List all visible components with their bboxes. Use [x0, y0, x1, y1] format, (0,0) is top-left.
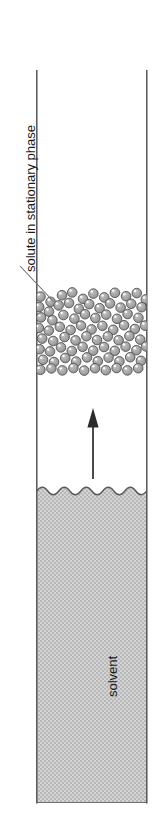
solvent-region: [37, 487, 147, 803]
solute-particle-band: [34, 288, 151, 376]
solvent-flow-arrow: [87, 408, 98, 479]
solvent-label: solvent: [105, 656, 120, 697]
arrow-head: [87, 408, 98, 428]
solute-label: solute in stationary phase: [23, 125, 38, 272]
chromatography-column-figure: solute in stationary phase solvent: [0, 0, 164, 840]
